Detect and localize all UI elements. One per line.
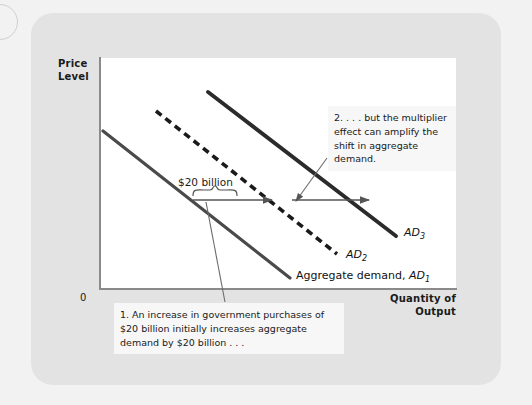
- note-government-purchases: 1. An increase in government purchases o…: [114, 303, 344, 354]
- note-multiplier-effect: 2. . . . but the multiplier effect can a…: [328, 106, 456, 171]
- ad1-label-prefix: Aggregate demand,: [296, 269, 409, 282]
- ad1-label-sub: 1: [425, 275, 430, 284]
- ad1-curve: [103, 131, 290, 278]
- ad2-label-name: AD: [346, 248, 362, 261]
- ad3-label-sub: 3: [420, 232, 425, 241]
- ad3-label: AD3: [404, 226, 425, 242]
- twenty-billion-label: $20 billion: [178, 176, 233, 189]
- note1-leader-line: [206, 202, 225, 302]
- ad2-label: AD2: [346, 248, 367, 264]
- figure-root: PriceLevel Quantity ofOutput 0 $20 billi: [0, 0, 532, 405]
- ad3-label-name: AD: [404, 226, 420, 239]
- ad1-label-name: AD: [409, 269, 425, 282]
- ad1-label: Aggregate demand, AD1: [296, 269, 430, 285]
- ad2-label-sub: 2: [362, 254, 367, 263]
